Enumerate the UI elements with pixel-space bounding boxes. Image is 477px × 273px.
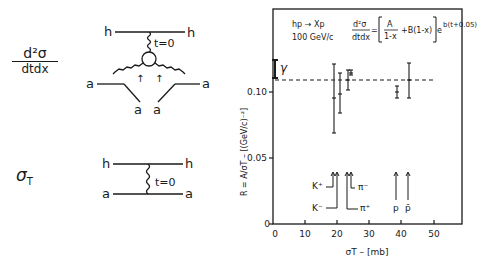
data-points (332, 63, 411, 133)
chart: 0.10 0.05 0 0 10 20 30 40 50 σT – [mb] R… (0, 0, 477, 273)
marker-label-kminus: K⁻ (312, 203, 323, 213)
y-tick-0: 0 (264, 219, 270, 229)
x-tick-20: 20 (331, 229, 343, 239)
formula-lhs-den: dtdx (352, 33, 370, 42)
formula-frac-num: A (387, 20, 393, 29)
marker-label-kplus: K⁺ (312, 181, 323, 191)
formula-exp-power: b(t+0.05) (443, 21, 477, 29)
marker-label-piminus: π⁻ (358, 182, 368, 192)
formula-exp-base: e (437, 26, 442, 35)
y-axis-label: R = A/σT – [(GeV/c)⁻²] (240, 108, 249, 196)
formula-plus-term: +B(1-x) (401, 26, 432, 35)
gamma-error-label: γ (280, 61, 288, 75)
x-tick-30: 30 (363, 229, 375, 239)
x-tick-0: 0 (272, 229, 278, 239)
formula-frac-den: 1-x (384, 32, 397, 41)
x-axis-label: σT – [mb] (346, 247, 389, 257)
energy-label: 100 GeV/c (292, 33, 334, 42)
x-tick-40: 40 (395, 229, 407, 239)
marker-label-p: p (393, 203, 399, 213)
formula-eq: = (371, 26, 378, 35)
x-tick-10: 10 (299, 229, 311, 239)
y-tick-0.10: 0.10 (247, 87, 267, 97)
y-tick-0.05: 0.05 (247, 153, 267, 163)
marker-label-piplus: π⁺ (360, 203, 370, 213)
formula-lhs-num: d²σ (353, 20, 366, 29)
marker-label-pbar: p̄ (405, 203, 411, 213)
x-tick-50: 50 (428, 229, 440, 239)
reaction-label: hp → Xp (292, 20, 325, 29)
